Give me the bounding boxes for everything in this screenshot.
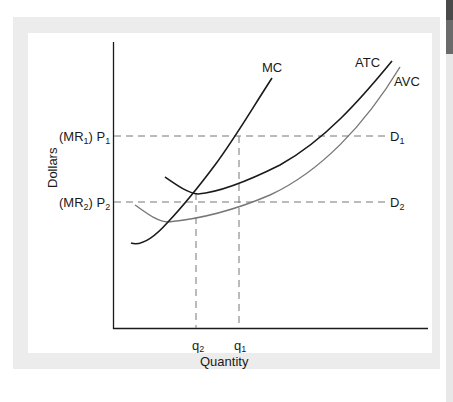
- x-axis-title: Quantity: [200, 354, 249, 369]
- d1-label: D1: [390, 129, 404, 146]
- p2-subscript: 2: [105, 202, 110, 212]
- q2-letter: q: [192, 338, 199, 353]
- avc-curve: [135, 67, 400, 222]
- avc-label: AVC: [394, 74, 420, 89]
- d1-letter: D: [390, 129, 399, 144]
- y-axis-title: Dollars: [45, 147, 60, 188]
- q1-label: q1: [234, 338, 246, 354]
- chart-svg: MC ATC AVC (MR1) P1 (MR2) P2 D1 D2 q2 q1…: [0, 0, 453, 402]
- p1-mid: ) P: [89, 129, 106, 144]
- d2-label: D2: [390, 195, 404, 212]
- d1-subscript: 1: [399, 136, 404, 146]
- q1-letter: q: [234, 338, 241, 353]
- p2-label: (MR2) P2: [59, 195, 110, 212]
- p1-subscript: 1: [105, 136, 110, 146]
- p2-mr-prefix: (MR: [59, 195, 84, 210]
- mc-curve: [131, 78, 272, 244]
- d2-subscript: 2: [399, 202, 404, 212]
- mc-label: MC: [262, 60, 282, 75]
- d2-letter: D: [390, 195, 399, 210]
- p1-label: (MR1) P1: [59, 129, 110, 146]
- atc-curve: [165, 61, 392, 194]
- atc-label: ATC: [355, 55, 380, 70]
- p1-mr-prefix: (MR: [59, 129, 84, 144]
- q1-subscript: 1: [241, 344, 246, 354]
- q2-subscript: 2: [199, 344, 204, 354]
- p2-mid: ) P: [89, 195, 106, 210]
- q2-label: q2: [192, 338, 204, 354]
